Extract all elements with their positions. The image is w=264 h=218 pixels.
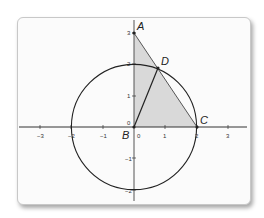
y-tick-label: 3	[127, 30, 131, 36]
y-tick-label: −1	[125, 156, 133, 162]
y-tick-label: 0	[127, 120, 131, 126]
point-a	[132, 31, 135, 34]
point-d	[156, 66, 159, 69]
point-c	[195, 125, 198, 128]
x-tick-label: 0	[137, 133, 141, 139]
label-d: D	[161, 55, 169, 67]
y-tick-label: 1	[127, 93, 131, 99]
label-b: B	[122, 129, 129, 141]
label-a: A	[136, 20, 144, 32]
label-c: C	[200, 114, 208, 126]
x-tick-label: 1	[163, 133, 167, 139]
x-tick-label: −1	[100, 133, 108, 139]
x-tick-label: −3	[37, 133, 45, 139]
coordinate-plane: −3 −2 −1 0 1 2 3 −2 −1 0 1 2 3 A B C D	[0, 0, 264, 218]
point-b	[132, 125, 135, 128]
x-tick-label: 3	[226, 133, 230, 139]
